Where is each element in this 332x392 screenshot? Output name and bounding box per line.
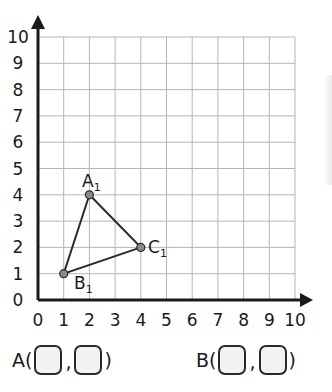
vertex-point-icon [137,243,145,251]
x-tick-labels: 012345678910 [33,310,306,330]
answer-a-y-input[interactable] [74,345,102,375]
answer-b-x-input[interactable] [218,345,246,375]
answer-b-separator: , [249,353,255,372]
x-tick-label: 10 [284,310,306,330]
y-tick-label: 6 [13,132,24,152]
answer-a-prefix: A( [12,351,32,370]
label-c1: C1 [148,237,167,260]
triangle-edges [64,195,141,274]
x-tick-label: 5 [161,310,172,330]
y-tick-label: 0 [13,290,24,310]
answer-b-y-input[interactable] [259,345,287,375]
answer-b-suffix: ) [289,351,296,370]
grid-lines [38,37,295,300]
coordinate-grid: 012345678910 012345678910 A1 B1 C1 [0,0,332,335]
triangle-a1b1c1 [64,195,141,274]
x-tick-label: 4 [135,310,146,330]
x-axis-arrow-icon [300,293,313,307]
answer-a-separator: , [65,353,71,372]
y-axis-arrow-icon [31,15,45,29]
y-tick-label: 1 [13,264,24,284]
answer-b: B( , ) [196,340,296,380]
y-tick-label: 5 [13,159,24,179]
y-tick-label: 2 [13,237,24,257]
y-tick-label: 10 [7,27,29,47]
vertex-point-icon [85,191,93,199]
triangle-vertices [60,191,145,278]
x-tick-label: 2 [84,310,95,330]
x-tick-label: 1 [58,310,69,330]
answer-a-x-input[interactable] [34,345,62,375]
y-tick-label: 8 [13,80,24,100]
x-tick-label: 3 [110,310,121,330]
y-tick-label: 9 [13,53,24,73]
y-tick-labels: 012345678910 [7,27,29,310]
x-tick-label: 8 [238,310,249,330]
y-tick-label: 3 [13,211,24,231]
axes [31,15,313,307]
y-tick-label: 7 [13,106,24,126]
x-tick-label: 6 [187,310,198,330]
y-tick-label: 4 [13,185,24,205]
answer-b-prefix: B( [196,351,216,370]
label-a1: A1 [82,171,101,194]
x-tick-label: 9 [264,310,275,330]
page-edge-shadow [324,75,332,185]
vertex-point-icon [60,270,68,278]
x-tick-label: 7 [212,310,223,330]
x-tick-label: 0 [33,310,44,330]
answer-a: A( , ) [12,340,112,380]
answer-a-suffix: ) [104,351,111,370]
